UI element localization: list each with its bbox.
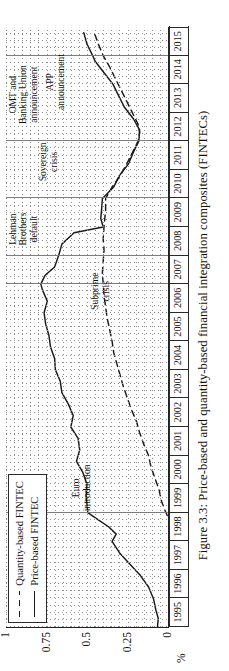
gridline-vertical <box>6 312 168 313</box>
gridline-vertical <box>6 462 168 463</box>
figure: 00.250.50.751 % 199519961997199819992000… <box>0 0 229 671</box>
gridline-vertical <box>6 176 168 177</box>
gridline-vertical <box>6 169 168 170</box>
annotation-subprime-crisis: Subprime crisis <box>90 273 111 310</box>
gridline-vertical <box>6 133 168 134</box>
event-line-2008 <box>6 255 168 256</box>
annotation-sovereign-crisis: Sovereign crisis <box>38 142 59 181</box>
x-tick-cell: 2012 <box>169 113 189 142</box>
annotation-euro-introduction: Euro introduction <box>71 464 92 511</box>
gridline-vertical <box>6 419 168 420</box>
gridline-vertical <box>6 383 168 384</box>
gridline-horizontal <box>63 27 64 627</box>
x-tick-cell: 2009 <box>169 198 189 227</box>
figure-page: 00.250.50.751 % 199519961997199819992000… <box>0 0 229 671</box>
x-tick-label: 1995 <box>172 598 183 626</box>
legend-label: Price-based FINTEC <box>29 497 40 586</box>
gridline-vertical <box>6 390 168 391</box>
gridline-vertical <box>6 183 168 184</box>
x-tick-cell: 2003 <box>169 370 189 399</box>
gridline-vertical <box>6 126 168 127</box>
y-axis-tick-labels: 00.250.50.751 <box>0 627 168 671</box>
gridline-vertical <box>6 205 168 206</box>
gridline-horizontal <box>79 27 80 627</box>
gridline-vertical <box>6 362 168 363</box>
gridline-vertical <box>6 190 168 191</box>
gridline-vertical <box>6 347 168 348</box>
gridline-vertical <box>6 397 168 398</box>
y-tick-label: 0.5 <box>81 632 93 646</box>
gridline-vertical <box>6 333 168 334</box>
gridline-horizontal <box>128 27 129 627</box>
x-tick-cell: 2002 <box>169 398 189 427</box>
x-tick-label: 2007 <box>172 256 183 284</box>
x-tick-label: 2010 <box>172 170 183 198</box>
legend-label: Quantity-based FINTEC <box>14 481 25 585</box>
gridline-horizontal <box>111 27 112 627</box>
annotation-app-announcement: APP announcement <box>45 54 66 110</box>
gridline-vertical <box>6 290 168 291</box>
x-tick-label: 2008 <box>172 227 183 255</box>
legend-key-dashed <box>14 591 24 617</box>
gridline-vertical <box>6 440 168 441</box>
x-tick-label: 2014 <box>172 56 183 84</box>
event-line-2012 <box>6 140 168 141</box>
x-tick-label: 2009 <box>172 198 183 226</box>
gridline-vertical <box>6 62 168 63</box>
event-line-2015 <box>6 55 168 56</box>
legend-item: Price-based FINTEC <box>27 481 42 616</box>
x-tick-cell: 2007 <box>169 256 189 285</box>
gridline-vertical <box>6 355 168 356</box>
x-tick-cell: 2010 <box>169 170 189 199</box>
annotation-lehman-brothers-default: Lehman Brothers default <box>8 213 40 246</box>
event-line-2007 <box>6 283 168 284</box>
x-tick-cell: 2015 <box>169 27 189 56</box>
gridline-vertical <box>6 269 168 270</box>
legend-key-solid <box>29 591 39 617</box>
x-tick-cell: 2000 <box>169 456 189 485</box>
x-tick-label: 1997 <box>172 541 183 569</box>
gridline-vertical <box>6 319 168 320</box>
x-tick-cell: 1998 <box>169 513 189 542</box>
x-tick-label: 1999 <box>172 484 183 512</box>
gridline-vertical <box>6 297 168 298</box>
x-tick-cell: 1997 <box>169 541 189 570</box>
gridline-vertical <box>6 147 168 148</box>
gridline-vertical <box>6 426 168 427</box>
y-tick-label: 1 <box>0 632 12 638</box>
gridline-horizontal <box>119 27 120 627</box>
gridline-horizontal <box>71 27 72 627</box>
x-tick-cell: 2006 <box>169 284 189 313</box>
x-tick-cell: 2014 <box>169 56 189 85</box>
gridline-horizontal <box>95 27 96 627</box>
gridline-horizontal <box>87 27 88 627</box>
x-tick-cell: 2013 <box>169 84 189 113</box>
x-tick-label: 2002 <box>172 398 183 426</box>
gridline-vertical <box>6 455 168 456</box>
gridline-vertical <box>6 47 168 48</box>
x-tick-label: 1998 <box>172 513 183 541</box>
x-tick-cell: 1999 <box>169 484 189 513</box>
series-line-price-based-fintec <box>41 33 158 627</box>
x-tick-label: 2000 <box>172 456 183 484</box>
x-tick-cell: 2008 <box>169 227 189 256</box>
gridline-vertical <box>6 276 168 277</box>
rotated-figure-container: 00.250.50.751 % 199519961997199819992000… <box>0 0 229 671</box>
gridline-vertical <box>6 33 168 34</box>
x-tick-cell: 2005 <box>169 313 189 342</box>
gridline-vertical <box>6 405 168 406</box>
gridline-vertical <box>6 376 168 377</box>
gridline-vertical <box>6 340 168 341</box>
x-tick-label: 2011 <box>172 141 183 169</box>
x-axis-label-bottom-rule <box>188 26 189 627</box>
x-tick-cell: 2011 <box>169 141 189 170</box>
x-tick-cell: 2001 <box>169 427 189 456</box>
y-tick-label: 0.75 <box>41 632 53 652</box>
legend: Quantity-based FINTECPrice-based FINTEC <box>8 474 47 622</box>
x-tick-label: 1996 <box>172 570 183 598</box>
x-tick-cell: 1995 <box>169 598 189 627</box>
x-tick-label: 2003 <box>172 370 183 398</box>
gridline-vertical <box>6 412 168 413</box>
x-tick-label: 2015 <box>172 28 183 55</box>
gridline-horizontal <box>103 27 104 627</box>
